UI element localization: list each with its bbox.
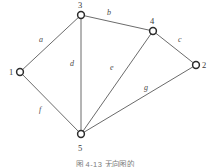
edge-label-e: e (110, 64, 114, 72)
edge-label-d: d (70, 60, 74, 68)
edges-group (22, 16, 193, 133)
vertex-label-2: 2 (202, 61, 206, 70)
graph-edge-c (156, 33, 194, 63)
vertices-group (17, 12, 200, 138)
graph-vertex-3 (78, 12, 85, 19)
graph-edge-b (84, 16, 149, 31)
graph-edge-g (84, 67, 193, 133)
graph-vertex-4 (150, 28, 157, 35)
edge-label-a: a (39, 36, 43, 44)
vertex-label-1: 1 (9, 68, 13, 77)
figure-caption: 图 4-13 无向图的 (0, 158, 210, 167)
graph-canvas (0, 0, 210, 167)
edge-label-g: g (144, 84, 148, 92)
vertex-label-5: 5 (78, 144, 82, 153)
graph-vertex-1 (17, 69, 24, 76)
vertex-label-3: 3 (78, 1, 82, 10)
graph-vertex-2 (193, 62, 200, 69)
vertex-label-4: 4 (150, 17, 154, 26)
edge-label-f: f (39, 106, 41, 114)
graph-edge-f (22, 74, 78, 131)
edge-label-b: b (107, 9, 111, 17)
graph-vertex-5 (78, 131, 85, 138)
figure-container: 12345 abcdefg 图 4-13 无向图的 (0, 0, 210, 167)
graph-edge-e (83, 34, 151, 131)
edge-label-c: c (178, 36, 182, 44)
